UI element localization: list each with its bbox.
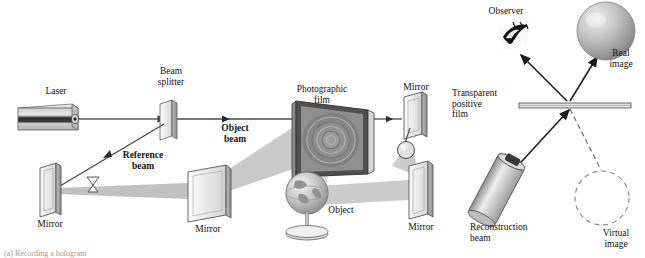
label-mirror-bottom-right: Mirror	[395, 222, 447, 233]
virtual-image-dashed-ray	[570, 109, 601, 170]
beam-expander-circular-lens	[398, 142, 415, 159]
label-mirror-left: Mirror	[24, 219, 76, 230]
transparent-film-bar	[519, 103, 631, 108]
ray-to-real-image	[570, 57, 597, 101]
label-object-beam: Object beam	[205, 123, 265, 144]
label-observer: Observer	[474, 6, 538, 17]
beam-splitter	[160, 100, 177, 140]
reconstruction-laser-cylinder	[466, 150, 528, 230]
label-object: Object	[318, 205, 364, 216]
clipped-caption: (a) Recording a hologram	[4, 250, 154, 258]
label-real-image: Real image	[598, 48, 644, 69]
mirror-left	[40, 163, 61, 217]
label-beam-splitter: Beam splitter	[143, 66, 199, 87]
object-beam-arrow	[222, 116, 230, 123]
label-reconstruction-beam: Reconstruction beam	[470, 222, 562, 243]
film-to-mirror-arrow	[386, 116, 393, 122]
label-mirror-top-right: Mirror	[390, 82, 442, 93]
mirror-top-right	[404, 92, 427, 139]
ray-to-observer	[521, 55, 567, 101]
object-beam-spread-right	[318, 180, 409, 205]
label-reference-beam: Reference beam	[108, 150, 178, 171]
holography-figure: Laser Beam splitter Object beam Referenc…	[0, 0, 645, 258]
label-mirror-center: Mirror	[182, 224, 234, 235]
label-transparent-positive-film: Transparent positive film	[452, 88, 520, 120]
label-photographic-film: Photographic film	[285, 84, 359, 105]
figure-canvas	[0, 0, 645, 258]
mirror-bottom-right	[409, 161, 433, 219]
label-virtual-image: Virtual image	[592, 228, 640, 249]
laser-box	[18, 104, 79, 130]
virtual-image-circle	[575, 171, 629, 225]
label-laser: Laser	[28, 86, 84, 97]
reference-beam-spread-left	[57, 183, 188, 199]
observer-eye-icon	[498, 20, 530, 50]
photographic-film	[292, 101, 374, 180]
mirror-center	[188, 165, 231, 222]
